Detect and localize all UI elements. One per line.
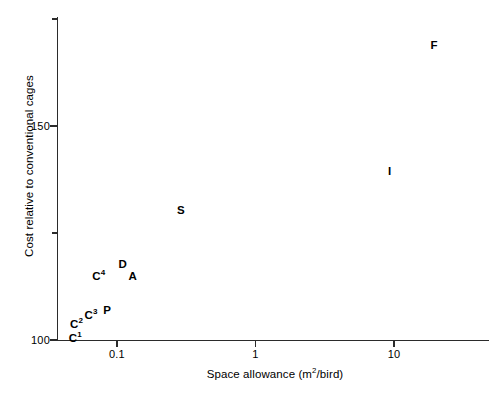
x-tick-label: 1 bbox=[241, 349, 271, 360]
x-tick-major bbox=[116, 341, 117, 347]
x-tick-major bbox=[393, 341, 394, 347]
y-tick-major bbox=[50, 125, 57, 126]
data-point-superscript: 1 bbox=[77, 330, 82, 339]
x-axis-title: Space allowance (m2/bird) bbox=[130, 368, 420, 381]
data-point-s: S bbox=[177, 205, 185, 216]
y-axis-line bbox=[57, 17, 58, 341]
y-tick-label: 100 bbox=[24, 335, 50, 346]
data-point-i: I bbox=[388, 165, 391, 176]
data-point-c4: C4 bbox=[92, 270, 105, 281]
data-point-c2: C2 bbox=[70, 318, 83, 329]
y-tick-minor bbox=[52, 232, 57, 233]
x-axis-title-post: /bird) bbox=[317, 368, 344, 380]
data-point-superscript: 2 bbox=[78, 315, 83, 324]
y-axis-title: Cost relative to conventional cages bbox=[23, 41, 35, 291]
scatter-chart: 150100 0.1110 Cost relative to conventio… bbox=[0, 0, 504, 398]
data-point-superscript: 4 bbox=[101, 267, 106, 276]
data-point-a: A bbox=[129, 270, 138, 281]
x-tick-label: 0.1 bbox=[102, 349, 132, 360]
x-tick-label: 10 bbox=[379, 349, 409, 360]
data-point-superscript: 3 bbox=[93, 307, 98, 316]
data-point-f: F bbox=[431, 39, 438, 50]
x-axis-title-pre: Space allowance (m bbox=[207, 368, 312, 380]
data-point-d: D bbox=[118, 258, 127, 269]
data-point-c3: C3 bbox=[84, 310, 97, 321]
data-point-p: P bbox=[103, 305, 111, 316]
x-axis-line bbox=[57, 340, 489, 341]
y-tick-minor bbox=[52, 18, 57, 19]
data-point-c1: C1 bbox=[69, 332, 82, 343]
y-tick-major bbox=[50, 339, 57, 340]
x-tick-major bbox=[255, 341, 256, 347]
